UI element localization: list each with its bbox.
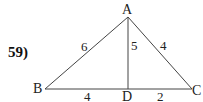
length-label-AD: 5	[131, 38, 138, 53]
segment-AC	[128, 17, 192, 89]
vertex-label-D: D	[122, 89, 132, 102]
vertex-label-B: B	[33, 81, 42, 96]
vertex-label-C: C	[192, 83, 201, 98]
triangle-diagram: 59) A B D C 6 5 4 4 2	[0, 0, 203, 102]
length-label-DC: 2	[157, 89, 164, 102]
length-label-BD: 4	[84, 89, 91, 102]
problem-number: 59)	[8, 44, 28, 61]
length-label-AB: 6	[81, 39, 88, 54]
length-label-AC: 4	[160, 38, 167, 53]
vertex-label-A: A	[122, 2, 133, 17]
